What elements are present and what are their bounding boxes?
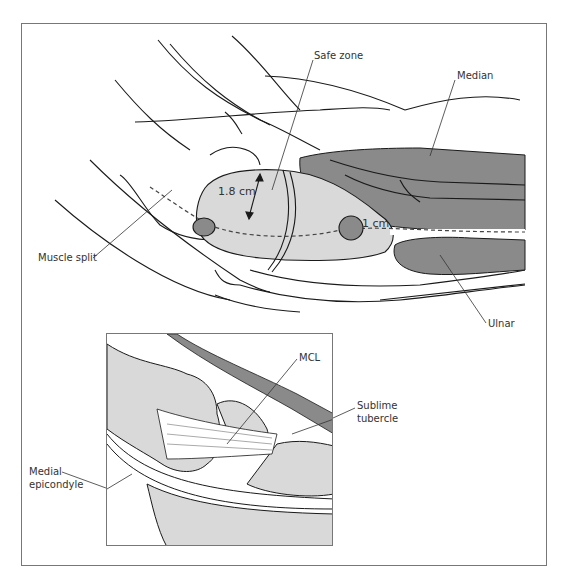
label-ulnar: Ulnar [488, 318, 515, 330]
label-measure-1-8cm: 1.8 cm [218, 186, 256, 198]
inset-view [106, 333, 333, 546]
marker-right [339, 216, 363, 240]
marker-left [193, 218, 215, 236]
label-sublime-tubercle-2: tubercle [357, 413, 398, 425]
label-sublime-tubercle-1: Sublime [357, 400, 397, 412]
inset-illustration [107, 334, 333, 546]
label-measure-1cm: 1 cm [362, 218, 389, 230]
label-mcl: MCL [299, 352, 320, 364]
label-safe-zone: Safe zone [314, 50, 363, 62]
ulnar-nerve-region [394, 237, 525, 274]
label-medial-epicondyle-2: epicondyle [29, 479, 83, 491]
label-muscle-split: Muscle split [38, 252, 97, 264]
label-median: Median [457, 70, 493, 82]
label-medial-epicondyle-1: Medial [29, 466, 62, 478]
